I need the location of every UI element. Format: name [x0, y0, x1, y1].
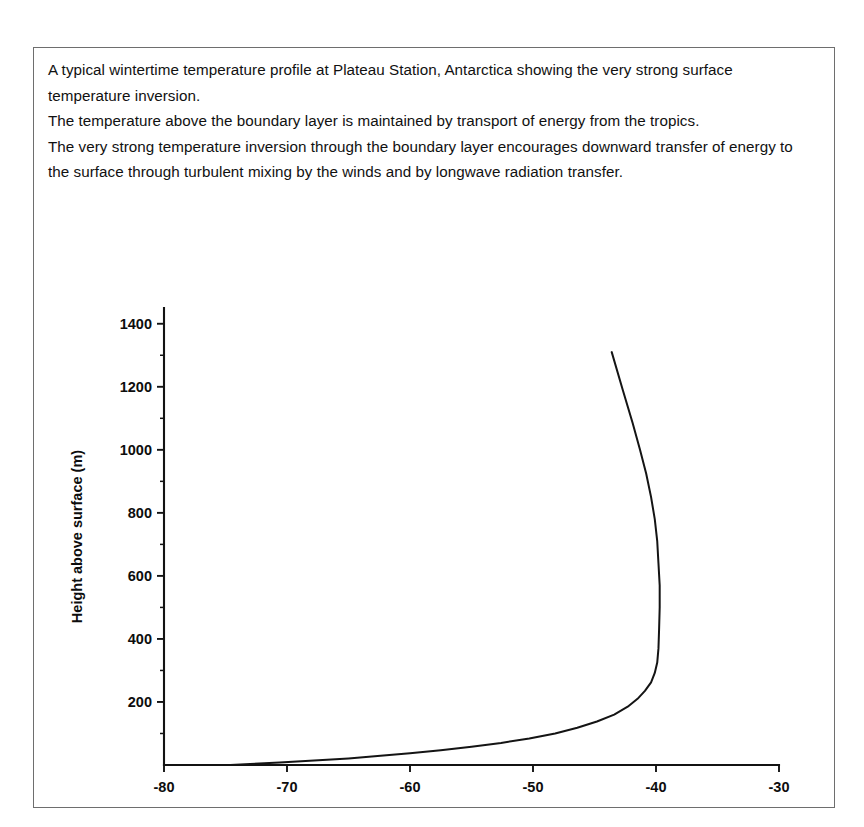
caption-line-1: A typical wintertime temperature profile… — [48, 57, 808, 108]
y-axis-title: Height above surface (m) — [69, 450, 85, 623]
y-tick-label-1200: 1200 — [120, 379, 152, 395]
plot-svg: 200400600800100012001400 -80-70-60-50-40… — [34, 243, 834, 803]
x-tick-label--40: -40 — [646, 779, 667, 795]
y-tick-label-800: 800 — [128, 505, 152, 521]
x-tick-label--80: -80 — [154, 779, 175, 795]
y-tick-label-400: 400 — [128, 631, 152, 647]
caption-block: A typical wintertime temperature profile… — [48, 57, 808, 185]
y-tick-label-200: 200 — [128, 694, 152, 710]
x-tick-label--60: -60 — [400, 779, 421, 795]
y-tick-label-1000: 1000 — [120, 442, 152, 458]
x-tick-label--50: -50 — [523, 779, 544, 795]
x-tick-label--70: -70 — [277, 779, 298, 795]
caption-line-3: The very strong temperature inversion th… — [48, 134, 808, 185]
y-axis-tick-labels: 200400600800100012001400 — [120, 316, 152, 710]
caption-line-2: The temperature above the boundary layer… — [48, 108, 808, 134]
temperature-profile-curve — [230, 352, 659, 765]
x-axis-tick-labels: -80-70-60-50-40-30 — [154, 779, 790, 795]
y-tick-label-1400: 1400 — [120, 316, 152, 332]
x-tick-label--30: -30 — [769, 779, 790, 795]
y-tick-label-600: 600 — [128, 568, 152, 584]
figure-frame: A typical wintertime temperature profile… — [33, 47, 835, 808]
axes-group — [164, 308, 779, 765]
temperature-profile-chart: 200400600800100012001400 -80-70-60-50-40… — [34, 243, 834, 803]
